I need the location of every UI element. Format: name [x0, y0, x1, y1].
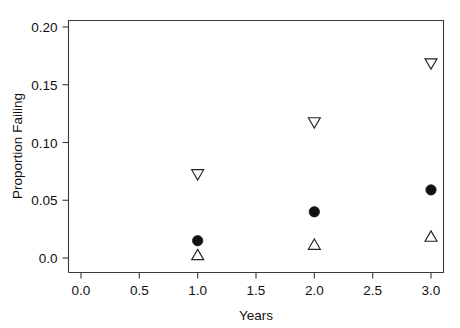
x-tick-label: 2.0 — [305, 283, 324, 298]
y-axis-tick-labels: 0.00.050.100.150.20 — [31, 20, 57, 266]
y-tick-label: 0.0 — [39, 251, 58, 266]
x-axis-tick-labels: 0.00.51.01.52.02.53.0 — [72, 283, 441, 298]
plot-frame — [69, 21, 444, 273]
data-point-upper-bound — [425, 59, 437, 69]
data-point-lower-bound — [425, 231, 437, 241]
x-axis-title: Years — [239, 308, 273, 323]
data-point-upper-bound — [192, 170, 204, 180]
x-tick-label: 1.5 — [247, 283, 266, 298]
scatter-plot-figure: 0.00.51.01.52.02.53.0 0.00.050.100.150.2… — [0, 0, 460, 328]
x-tick-label: 3.0 — [422, 283, 441, 298]
x-tick-label: 0.0 — [72, 283, 91, 298]
y-tick-label: 0.10 — [31, 136, 57, 151]
data-point-estimate — [192, 235, 202, 245]
x-tick-label: 1.0 — [188, 283, 207, 298]
data-point-lower-bound — [192, 249, 204, 259]
data-point-upper-bound — [308, 118, 320, 128]
x-tick-label: 0.5 — [130, 283, 149, 298]
x-axis-ticks — [81, 273, 431, 279]
data-point-estimate — [309, 207, 319, 217]
data-point-lower-bound — [308, 239, 320, 249]
plot-canvas: 0.00.51.01.52.02.53.0 0.00.050.100.150.2… — [0, 0, 460, 328]
y-tick-label: 0.05 — [31, 193, 57, 208]
y-tick-label: 0.15 — [31, 78, 57, 93]
data-point-markers — [192, 59, 437, 260]
x-tick-label: 2.5 — [363, 283, 382, 298]
y-axis-title: Proportion Failing — [10, 93, 25, 199]
y-tick-label: 0.20 — [31, 20, 57, 35]
data-point-estimate — [426, 185, 436, 195]
y-axis-ticks — [63, 27, 69, 258]
